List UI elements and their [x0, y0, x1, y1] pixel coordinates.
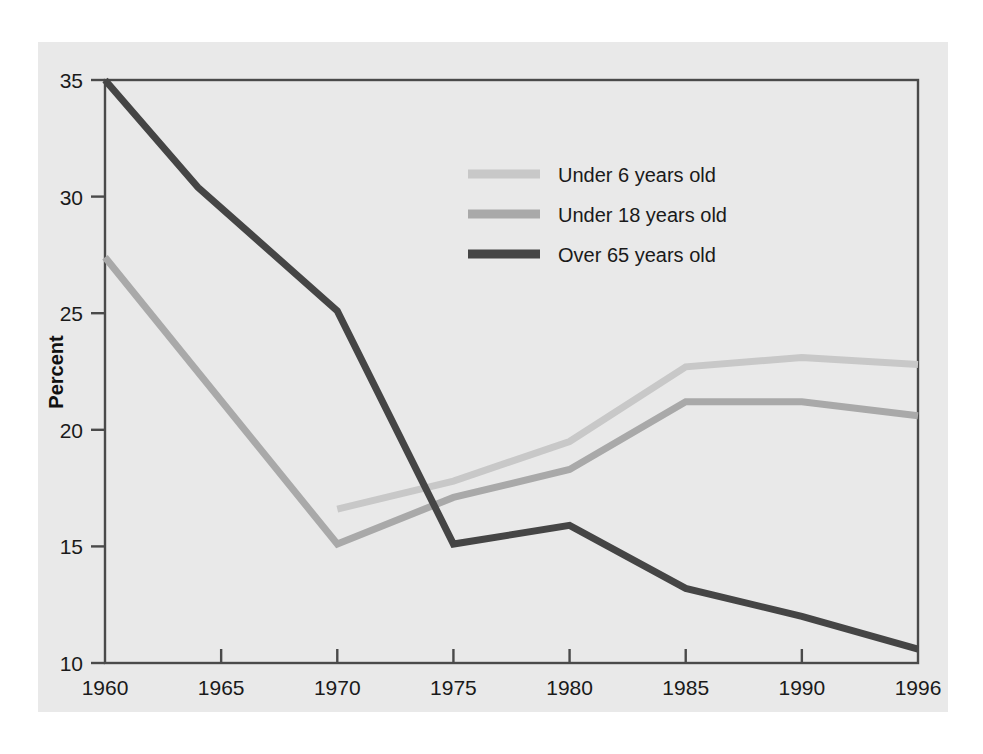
data-series-group — [105, 80, 918, 649]
chart-legend: Under 6 years oldUnder 18 years oldOver … — [468, 164, 727, 266]
legend-label: Over 65 years old — [558, 244, 716, 266]
legend-label: Under 6 years old — [558, 164, 716, 186]
x-axis-tick-labels: 19601965197019751980198519901996 — [82, 676, 942, 699]
legend-swatch — [468, 250, 540, 259]
x-tick-label: 1990 — [778, 676, 825, 699]
y-tick-label: 35 — [60, 69, 83, 92]
x-tick-label: 1985 — [662, 676, 709, 699]
x-tick-label: 1996 — [895, 676, 942, 699]
y-axis-title: Percent — [45, 335, 67, 409]
x-tick-label: 1980 — [546, 676, 593, 699]
plot-frame — [105, 80, 918, 663]
x-tick-label: 1960 — [82, 676, 129, 699]
legend-swatch — [468, 210, 540, 219]
y-tick-label: 25 — [60, 302, 83, 325]
y-tick-label: 30 — [60, 186, 83, 209]
y-axis-tick-marks — [91, 80, 105, 663]
x-tick-label: 1970 — [314, 676, 361, 699]
legend-swatch — [468, 170, 540, 179]
y-tick-label: 10 — [60, 652, 83, 675]
legend-label: Under 18 years old — [558, 204, 727, 226]
series-line — [105, 80, 918, 649]
series-line — [105, 257, 918, 544]
chart-figure: 101520253035 196019651970197519801985199… — [0, 0, 983, 754]
y-tick-label: 15 — [60, 535, 83, 558]
y-tick-label: 20 — [60, 419, 83, 442]
x-tick-label: 1975 — [430, 676, 477, 699]
x-tick-label: 1965 — [198, 676, 245, 699]
x-axis-tick-marks — [221, 649, 802, 663]
line-chart: 101520253035 196019651970197519801985199… — [0, 0, 983, 754]
